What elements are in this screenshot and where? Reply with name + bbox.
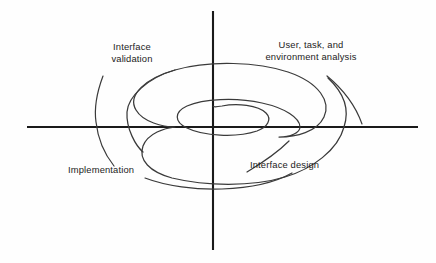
spiral-outer-left-arc bbox=[127, 70, 175, 152]
spiral-model-figure: Interface validation User, task, and env… bbox=[0, 0, 436, 263]
leader-interface-validation bbox=[95, 76, 114, 166]
label-user-task-environment-analysis: User, task, and environment analysis bbox=[250, 39, 372, 63]
leader-user-task-environment bbox=[327, 76, 362, 124]
label-interface-validation: Interface validation bbox=[96, 41, 168, 65]
label-interface-design: Interface design bbox=[250, 159, 350, 171]
label-implementation: Implementation bbox=[68, 164, 164, 176]
